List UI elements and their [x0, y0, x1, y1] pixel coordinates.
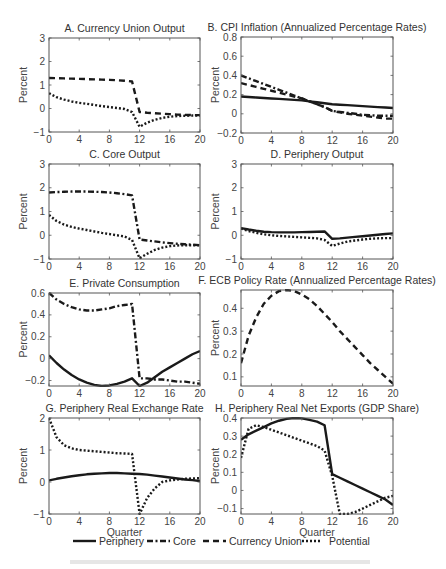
legend-label-periphery: Periphery — [99, 535, 145, 547]
x-tick-label: 0 — [238, 388, 244, 399]
legend-label-potential: Potential — [329, 535, 370, 547]
y-axis-label: Percent — [209, 448, 221, 484]
series-line-core — [49, 293, 200, 384]
x-tick-label: 8 — [299, 135, 305, 146]
x-tick-label: 0 — [238, 135, 244, 146]
y-tick-label: 2 — [231, 182, 237, 193]
plot-frame — [241, 37, 393, 133]
x-tick-label: 8 — [299, 261, 305, 272]
panel-d: D. Periphery Output048121620−10123Percen… — [209, 148, 399, 272]
y-tick-label: 0 — [39, 103, 45, 114]
panel-a: A. Currency Union Output048121620−10123P… — [17, 22, 206, 145]
y-tick-label: −0.2 — [25, 375, 45, 386]
x-tick-label: 0 — [46, 134, 52, 145]
x-tick-label: 20 — [387, 261, 399, 272]
y-tick-label: −1 — [34, 127, 46, 138]
x-tick-label: 4 — [269, 261, 275, 272]
y-tick-label: 3 — [39, 159, 45, 170]
x-tick-label: 8 — [107, 261, 113, 272]
x-tick-label: 16 — [357, 135, 369, 146]
y-tick-label: 1 — [39, 80, 45, 91]
y-tick-label: 0.2 — [223, 449, 237, 460]
y-tick-label: 0 — [39, 353, 45, 364]
series-line-potential — [241, 425, 393, 514]
x-tick-label: 12 — [327, 388, 339, 399]
y-tick-label: 0.2 — [223, 89, 237, 100]
x-tick-label: 4 — [269, 516, 275, 527]
plot-frame — [49, 418, 200, 514]
x-tick-label: 20 — [194, 134, 206, 145]
y-axis-label: Percent — [209, 320, 221, 356]
x-tick-label: 16 — [164, 388, 176, 399]
legend-label-union: Currency Union — [229, 535, 302, 547]
y-axis-label: Percent — [17, 67, 29, 103]
y-tick-label: −1 — [226, 254, 238, 265]
x-tick-label: 20 — [194, 261, 206, 272]
x-tick-label: 16 — [164, 261, 176, 272]
x-tick-label: 16 — [357, 516, 369, 527]
series-line-periphery — [241, 418, 393, 505]
panel-title: D. Periphery Output — [271, 148, 364, 160]
x-tick-label: 8 — [107, 134, 113, 145]
x-tick-label: 4 — [269, 135, 275, 146]
panel-title: C. Core Output — [89, 148, 160, 160]
x-tick-label: 0 — [238, 516, 244, 527]
y-tick-label: 0.4 — [223, 70, 237, 81]
panel-title: G. Periphery Real Exchange Rate — [45, 402, 203, 414]
y-tick-label: 0.1 — [223, 467, 237, 478]
y-tick-label: 1 — [39, 445, 45, 456]
x-tick-label: 0 — [46, 388, 52, 399]
y-tick-label: 0 — [39, 230, 45, 241]
y-tick-label: 0.3 — [223, 431, 237, 442]
series-line-periphery — [241, 97, 393, 109]
series-line-potential — [49, 215, 200, 258]
y-tick-label: −1 — [34, 254, 46, 265]
x-tick-label: 20 — [194, 388, 206, 399]
series-line-core — [49, 192, 200, 246]
caption-blur — [70, 560, 370, 564]
x-tick-label: 0 — [46, 516, 52, 527]
x-tick-label: 4 — [76, 388, 82, 399]
series-line-potential — [49, 418, 200, 514]
x-tick-label: 0 — [46, 261, 52, 272]
panel-g: G. Periphery Real Exchange Rate048121620… — [17, 402, 206, 538]
panel-title: F. ECB Policy Rate (Annualized Percentag… — [198, 274, 436, 286]
legend-label-core: Core — [173, 535, 196, 547]
y-tick-label: 0.6 — [223, 51, 237, 62]
x-tick-label: 4 — [76, 261, 82, 272]
x-tick-label: 12 — [327, 135, 339, 146]
x-tick-label: 0 — [238, 261, 244, 272]
x-tick-label: 20 — [387, 516, 399, 527]
plot-frame — [241, 164, 393, 259]
y-tick-label: 2 — [39, 56, 45, 67]
x-tick-label: 12 — [327, 261, 339, 272]
y-tick-label: 0.1 — [223, 371, 237, 382]
panel-title: H. Periphery Real Net Exports (GDP Share… — [215, 402, 419, 414]
y-tick-label: 3 — [231, 159, 237, 170]
x-tick-label: 8 — [299, 388, 305, 399]
y-tick-label: 1 — [39, 206, 45, 217]
y-axis-label: Percent — [17, 193, 29, 229]
y-tick-label: 0 — [39, 477, 45, 488]
legend-item-union: Currency Union — [203, 535, 302, 547]
panel-b: B. CPI Inflation (Annualized Percentage … — [208, 21, 427, 146]
plot-frame — [241, 418, 393, 514]
series-line-periphery — [49, 351, 200, 386]
panel-h: H. Periphery Real Net Exports (GDP Share… — [209, 402, 419, 538]
y-tick-label: 0.2 — [31, 331, 45, 342]
panel-title: A. Currency Union Output — [64, 22, 184, 34]
y-tick-label: 0.6 — [31, 288, 45, 299]
y-tick-label: 0 — [231, 230, 237, 241]
y-axis-label: Percent — [17, 448, 29, 484]
x-tick-label: 16 — [164, 134, 176, 145]
panel-f: F. ECB Policy Rate (Annualized Percentag… — [198, 274, 436, 399]
y-tick-label: 0.3 — [223, 326, 237, 337]
figure: A. Currency Union Output048121620−10123P… — [0, 0, 446, 569]
x-tick-label: 4 — [269, 388, 275, 399]
series-line-currency-union — [241, 83, 393, 119]
x-tick-label: 16 — [164, 516, 176, 527]
x-tick-label: 12 — [134, 134, 146, 145]
x-tick-label: 8 — [107, 388, 113, 399]
y-tick-label: 0 — [231, 108, 237, 119]
y-tick-label: −0.2 — [217, 128, 237, 139]
